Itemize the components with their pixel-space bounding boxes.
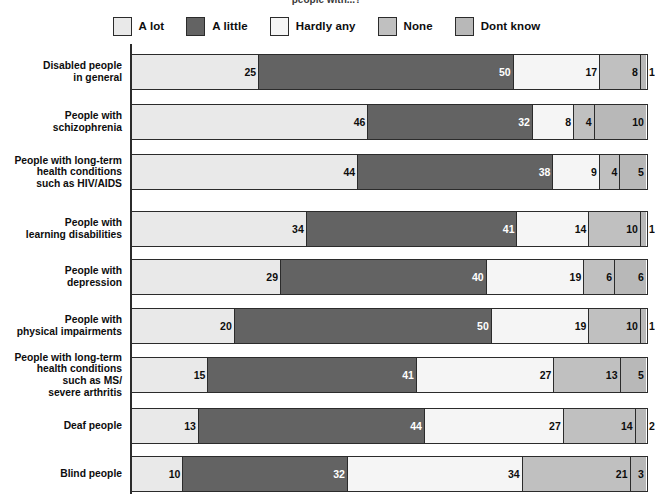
chart-row: People with long-term health conditions …: [0, 154, 653, 190]
segment-value: 5: [638, 370, 646, 381]
segment-value: 46: [354, 117, 368, 128]
bar-segment-a-little[interactable]: 40: [281, 260, 487, 294]
segment-value: 34: [292, 224, 306, 235]
stacked-bar: 25501781: [131, 54, 648, 90]
stacked-bar: 29401966: [131, 259, 648, 295]
bar-segment-none[interactable]: 8: [600, 55, 641, 89]
segment-value: 29: [266, 272, 280, 283]
bar-segment-a-lot[interactable]: 34: [132, 212, 307, 246]
legend-swatch-icon: [378, 17, 397, 36]
bar-segment-none[interactable]: 10: [589, 309, 640, 343]
segment-value: 13: [606, 370, 620, 381]
chart-row: Deaf people134427142: [0, 408, 653, 444]
bar-segment-none[interactable]: 4: [600, 155, 621, 189]
bar-segment-hardly-any[interactable]: 27: [417, 358, 554, 392]
chart-legend: A lotA littleHardly anyNoneDont know: [0, 13, 653, 39]
segment-value: 32: [333, 469, 347, 480]
bar-segment-hardly-any[interactable]: 19: [492, 309, 590, 343]
segment-value: 13: [184, 421, 198, 432]
bar-segment-a-lot[interactable]: 46: [132, 105, 368, 139]
segment-value: 10: [626, 224, 640, 235]
bar-segment-hardly-any[interactable]: 9: [553, 155, 599, 189]
bar-segment-hardly-any[interactable]: 19: [487, 260, 585, 294]
chart-row: People with long-term health conditions …: [0, 357, 653, 393]
bar-segment-a-lot[interactable]: 25: [132, 55, 259, 89]
segment-value: 4: [611, 167, 619, 178]
segment-value: 4: [586, 117, 594, 128]
bar-segment-none[interactable]: 4: [574, 105, 595, 139]
bar-segment-a-lot[interactable]: 10: [132, 457, 183, 491]
legend-item-2[interactable]: Hardly any: [270, 17, 356, 36]
legend-label: Hardly any: [296, 20, 356, 32]
chart-title: people with...?: [0, 0, 653, 5]
bar-segment-dont-know[interactable]: 1: [641, 309, 646, 343]
bar-segment-dont-know[interactable]: 1: [641, 212, 646, 246]
bar-segment-dont-know[interactable]: 6: [615, 260, 646, 294]
segment-value: 50: [499, 67, 513, 78]
stacked-bar: 205019101: [131, 308, 648, 344]
stacked-bar: 46328410: [131, 104, 648, 140]
bar-segment-a-little[interactable]: 41: [208, 358, 417, 392]
bar-segment-none[interactable]: 21: [523, 457, 631, 491]
bar-segment-a-little[interactable]: 44: [199, 409, 425, 443]
legend-item-3[interactable]: None: [378, 17, 433, 36]
category-label: People with long-term health conditions …: [0, 155, 126, 190]
segment-value: 10: [632, 117, 646, 128]
legend-swatch-icon: [270, 17, 289, 36]
bar-segment-none[interactable]: 10: [589, 212, 640, 246]
bar-segment-a-little[interactable]: 38: [358, 155, 553, 189]
bar-segment-a-little[interactable]: 41: [307, 212, 518, 246]
stacked-bar: 344114101: [131, 211, 648, 247]
bar-segment-a-little[interactable]: 32: [183, 457, 347, 491]
legend-swatch-icon: [186, 17, 205, 36]
bar-segment-dont-know[interactable]: 2: [636, 409, 646, 443]
segment-value: 10: [626, 321, 640, 332]
segment-value: 14: [621, 421, 635, 432]
bar-segment-a-lot[interactable]: 15: [132, 358, 208, 392]
segment-value: 2: [646, 421, 655, 432]
segment-value: 1: [646, 224, 655, 235]
legend-item-4[interactable]: Dont know: [455, 17, 541, 36]
stacked-bar: 154127135: [131, 357, 648, 393]
bar-segment-a-little[interactable]: 32: [368, 105, 532, 139]
bar-segment-hardly-any[interactable]: 17: [514, 55, 601, 89]
bar-segment-a-little[interactable]: 50: [235, 309, 492, 343]
legend-item-1[interactable]: A little: [186, 17, 248, 36]
bar-segment-none[interactable]: 14: [564, 409, 636, 443]
bar-segment-none[interactable]: 6: [584, 260, 615, 294]
bar-segment-a-lot[interactable]: 44: [132, 155, 358, 189]
segment-value: 6: [638, 272, 646, 283]
bar-segment-a-lot[interactable]: 13: [132, 409, 199, 443]
bar-segment-a-little[interactable]: 50: [259, 55, 513, 89]
segment-value: 44: [343, 167, 357, 178]
segment-value: 6: [606, 272, 614, 283]
bar-segment-dont-know[interactable]: 5: [621, 358, 646, 392]
bar-segment-hardly-any[interactable]: 8: [533, 105, 574, 139]
bar-segment-a-lot[interactable]: 20: [132, 309, 235, 343]
segment-value: 1: [646, 321, 655, 332]
bar-segment-dont-know[interactable]: 1: [641, 55, 646, 89]
bar-segment-hardly-any[interactable]: 27: [425, 409, 564, 443]
bar-segment-hardly-any[interactable]: 34: [348, 457, 523, 491]
plot-area: Disabled people in general25501781People…: [0, 44, 653, 496]
segment-value: 3: [638, 469, 646, 480]
segment-value: 17: [585, 67, 599, 78]
segment-value: 20: [220, 321, 234, 332]
bar-segment-dont-know[interactable]: 10: [595, 105, 646, 139]
chart-row: Disabled people in general25501781: [0, 54, 653, 90]
segment-value: 34: [508, 469, 522, 480]
bar-segment-dont-know[interactable]: 3: [631, 457, 646, 491]
bar-segment-a-lot[interactable]: 29: [132, 260, 281, 294]
legend-swatch-icon: [113, 17, 132, 36]
segment-value: 41: [402, 370, 416, 381]
legend-item-0[interactable]: A lot: [113, 17, 165, 36]
segment-value: 10: [169, 469, 183, 480]
segment-value: 1: [646, 67, 655, 78]
segment-value: 50: [477, 321, 491, 332]
bar-segment-hardly-any[interactable]: 14: [517, 212, 589, 246]
bar-segment-none[interactable]: 13: [554, 358, 620, 392]
segment-value: 19: [575, 321, 589, 332]
bar-segment-dont-know[interactable]: 5: [620, 155, 646, 189]
segment-value: 8: [565, 117, 573, 128]
